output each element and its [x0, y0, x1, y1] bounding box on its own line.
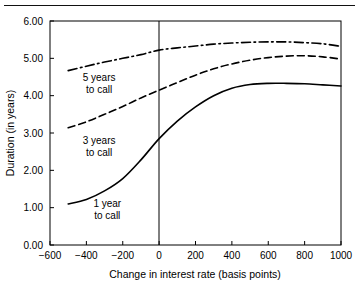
label-3-years-to-call: 3 yearsto call: [83, 135, 116, 158]
label-5-years-to-call: 5 yearsto call: [83, 72, 116, 95]
y-tick-label-3.00: 3.00: [24, 128, 44, 139]
label-5-years-to-call-line-2: to call: [86, 84, 112, 95]
y-axis-title: Duration (in years): [4, 90, 16, 176]
x-axis-ticks: −600−400−20002004006008001000: [39, 241, 353, 261]
label-1-year-to-call-line-2: to call: [94, 210, 120, 221]
duration-line-chart: −600−400−20002004006008001000 0.001.002.…: [0, 0, 359, 290]
x-tick-label--400: −400: [75, 250, 98, 261]
x-axis-title: Change in interest rate (basis points): [109, 268, 281, 280]
x-tick-label-400: 400: [224, 250, 241, 261]
x-tick-label-1000: 1000: [330, 250, 353, 261]
y-axis-ticks: 0.001.002.003.004.005.006.00: [24, 16, 54, 251]
x-tick-label-600: 600: [260, 250, 277, 261]
x-tick-label-200: 200: [187, 250, 204, 261]
data-curves: [68, 42, 341, 204]
x-tick-label-800: 800: [296, 250, 313, 261]
x-tick-label--200: −200: [111, 250, 134, 261]
y-tick-label-1.00: 1.00: [24, 202, 44, 213]
label-3-years-to-call-line-1: 3 years: [83, 135, 116, 146]
chart-figure: −600−400−20002004006008001000 0.001.002.…: [0, 0, 359, 290]
label-3-years-to-call-line-2: to call: [86, 147, 112, 158]
x-tick-label-0: 0: [156, 250, 162, 261]
y-tick-label-5.00: 5.00: [24, 53, 44, 64]
y-tick-label-6.00: 6.00: [24, 16, 44, 27]
x-tick-label--600: −600: [39, 250, 62, 261]
y-tick-label-0.00: 0.00: [24, 240, 44, 251]
label-5-years-to-call-line-1: 5 years: [83, 72, 116, 83]
label-1-year-to-call-line-1: 1 year: [93, 198, 121, 209]
label-1-year-to-call: 1 yearto call: [93, 198, 121, 221]
y-tick-label-4.00: 4.00: [24, 90, 44, 101]
y-tick-label-2.00: 2.00: [24, 165, 44, 176]
